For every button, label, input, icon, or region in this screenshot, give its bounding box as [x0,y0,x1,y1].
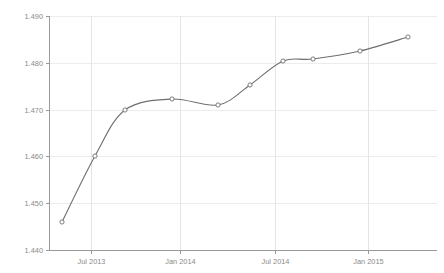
data-point-marker [358,49,362,53]
data-point-marker [93,154,97,158]
data-point-marker [406,35,410,39]
data-point-marker [123,108,127,112]
y-tick-label: 1.460 [25,152,44,161]
data-point-marker [281,59,285,63]
data-point-marker [216,103,220,107]
y-tick-label: 1.470 [25,106,44,115]
y-tick-label: 1.450 [25,199,44,208]
x-tick-label: Jan 2014 [165,257,195,266]
x-tick-label: Jan 2015 [353,257,383,266]
data-point-marker [170,97,174,101]
chart-canvas: 1.4401.4501.4601.4701.4801.490 Jul 2013J… [0,0,444,273]
chart-background [0,0,444,273]
x-tick-label: Jul 2014 [262,257,290,266]
data-point-marker [311,57,315,61]
data-point-marker [60,220,64,224]
x-tick-label: Jul 2013 [78,257,106,266]
y-tick-label: 1.480 [25,59,44,68]
y-tick-label: 1.490 [25,12,44,21]
y-tick-label: 1.440 [25,246,44,255]
data-point-marker [248,83,252,87]
line-chart: 1.4401.4501.4601.4701.4801.490 Jul 2013J… [0,0,444,273]
